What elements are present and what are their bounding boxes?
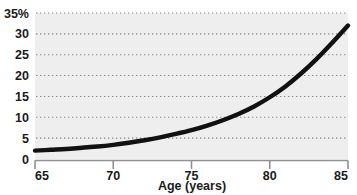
y-axis-tick-label: 0: [22, 153, 29, 167]
plot-area-background: [35, 13, 348, 159]
y-axis-tick-label: 20: [15, 69, 29, 83]
x-axis-title: Age (years): [158, 179, 226, 193]
y-axis-tick-label: 15: [15, 90, 29, 104]
x-axis-tick-label: 85: [334, 169, 348, 183]
chart-figure: 05101520253035% 6570758085 Age (years): [0, 0, 357, 195]
y-axis-tick-label: 10: [15, 111, 29, 125]
x-axis-tick-label: 65: [35, 169, 49, 183]
y-axis-tick-label: 25: [15, 48, 29, 62]
x-axis-tick-label: 80: [263, 169, 277, 183]
y-axis-tick-label: 5: [22, 132, 29, 146]
y-axis-tick-label: 30: [15, 27, 29, 41]
x-axis-ticks: [35, 161, 348, 170]
x-axis-tick-label: 70: [106, 169, 120, 183]
y-axis-tick-label: 35%: [4, 7, 29, 21]
line-chart: 05101520253035% 6570758085 Age (years): [0, 0, 357, 195]
y-axis-tick-labels: 05101520253035%: [4, 7, 29, 167]
